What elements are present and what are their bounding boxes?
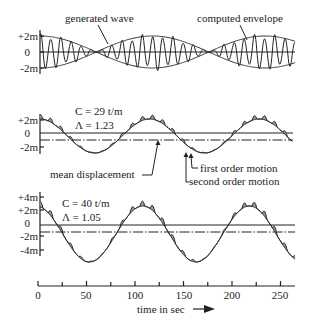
y-tick-label: 0 bbox=[25, 46, 31, 58]
x-tick-label: 150 bbox=[176, 289, 193, 301]
x-tick-label: 100 bbox=[127, 289, 144, 301]
y-tick-label: -2m bbox=[20, 141, 38, 153]
panel-generated-wave: +2m 0 -2m generated wave computed envelo… bbox=[18, 12, 295, 74]
y-tick-label: +4m bbox=[18, 191, 39, 203]
y-tick-label: +2m bbox=[18, 30, 39, 42]
param-c: C = 40 t/m bbox=[62, 197, 110, 209]
param-c: C = 29 t/m bbox=[75, 105, 123, 117]
leader-line bbox=[142, 142, 158, 175]
param-lambda: Λ = 1.23 bbox=[75, 119, 114, 131]
x-tick-label: 200 bbox=[224, 289, 241, 301]
leader-line bbox=[240, 25, 247, 40]
annotation-first-order-motion: first order motion bbox=[200, 162, 278, 174]
panel-response-c40: +4m +2m 0 -2m -4m C = 40 t/m Λ = 1.05 bbox=[18, 191, 295, 262]
arrow-right-icon bbox=[204, 305, 215, 313]
annotation-computed-envelope: computed envelope bbox=[197, 12, 283, 24]
chart-svg: +2m 0 -2m generated wave computed envelo… bbox=[0, 0, 310, 327]
annotation-mean-displacement: mean displacement bbox=[50, 168, 135, 180]
x-tick-label: 50 bbox=[81, 289, 93, 301]
x-tick-label: 0 bbox=[35, 289, 41, 301]
x-axis: 0 50 100 150 200 250 time in sec bbox=[35, 281, 295, 315]
x-axis-label: time in sec bbox=[137, 303, 185, 315]
annotation-second-order-motion: second order motion bbox=[189, 175, 280, 187]
y-tick-label: -4m bbox=[20, 244, 38, 256]
y-tick-label: -2m bbox=[20, 230, 38, 242]
x-tick-label: 250 bbox=[272, 289, 289, 301]
figure: +2m 0 -2m generated wave computed envelo… bbox=[0, 0, 310, 327]
panel-response-c29: +2m 0 -2m C = 29 t/m Λ = 1.23 mean displ… bbox=[18, 105, 293, 187]
leader-line bbox=[98, 25, 108, 44]
annotation-generated-wave: generated wave bbox=[65, 12, 134, 24]
param-lambda: Λ = 1.05 bbox=[62, 211, 101, 223]
y-tick-label: +2m bbox=[18, 204, 39, 216]
y-tick-label: +2m bbox=[18, 114, 39, 126]
y-tick-label: 0 bbox=[25, 127, 31, 139]
y-tick-label: 0 bbox=[25, 217, 31, 229]
y-tick-label: -2m bbox=[20, 62, 38, 74]
